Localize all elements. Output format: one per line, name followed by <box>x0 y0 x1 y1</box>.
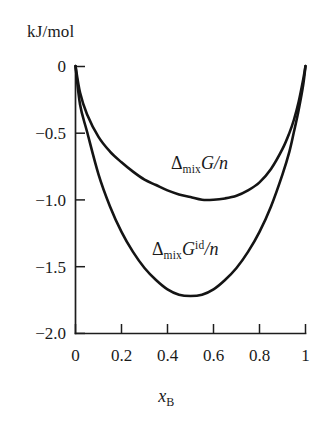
y-tick-label-neg15: −1.5 <box>14 259 66 276</box>
y-tick-label-0: 0 <box>28 58 66 75</box>
gibbs-symbol-ideal: G <box>182 239 195 259</box>
mix-subscript-ideal: mix <box>164 249 183 261</box>
moles-symbol-ideal: n <box>209 239 218 259</box>
curve-label-real: ΔmixG/n <box>171 154 228 175</box>
y-tick-label-neg20: −2.0 <box>14 325 66 342</box>
mix-subscript-real: mix <box>183 163 202 175</box>
curve-ideal-gibbs <box>76 66 306 296</box>
x-axis-title-subscript: B <box>166 395 174 409</box>
moles-symbol-real: n <box>219 153 228 173</box>
x-tick-label-06: 0.6 <box>191 347 236 364</box>
curve-real-gibbs <box>76 66 306 200</box>
x-tick-label-04: 0.4 <box>145 347 190 364</box>
curve-label-ideal: ΔmixGid/n <box>152 240 218 261</box>
delta-symbol-ideal: Δ <box>152 239 164 259</box>
x-tick-label-1: 1 <box>288 347 323 364</box>
x-tick-label-0: 0 <box>57 347 94 364</box>
x-tick-label-08: 0.8 <box>237 347 282 364</box>
gibbs-mixing-figure: kJ/mol 0 −0.5 −1.0 −1.5 −2.0 <box>0 0 333 427</box>
gibbs-symbol-real: G <box>201 153 214 173</box>
x-tick-label-02: 0.2 <box>99 347 144 364</box>
y-tick-label-neg05: −0.5 <box>14 125 66 142</box>
x-axis-title: xB <box>0 386 333 410</box>
y-tick-label-neg10: −1.0 <box>14 192 66 209</box>
delta-symbol-real: Δ <box>171 153 183 173</box>
x-axis-ticks <box>76 324 306 334</box>
